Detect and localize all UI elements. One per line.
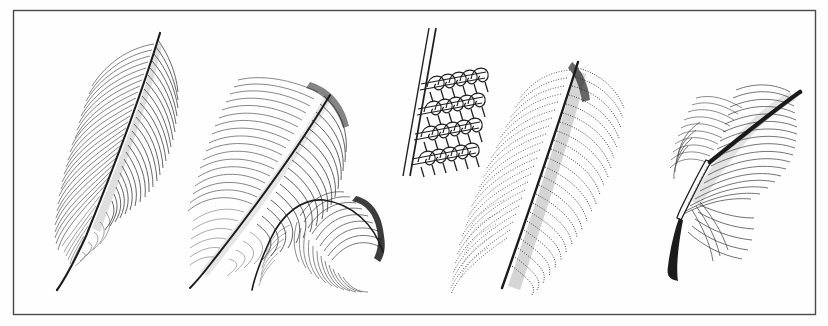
plate-canvas	[0, 0, 828, 326]
feather-engraving-plate: Feathers	[0, 0, 828, 326]
